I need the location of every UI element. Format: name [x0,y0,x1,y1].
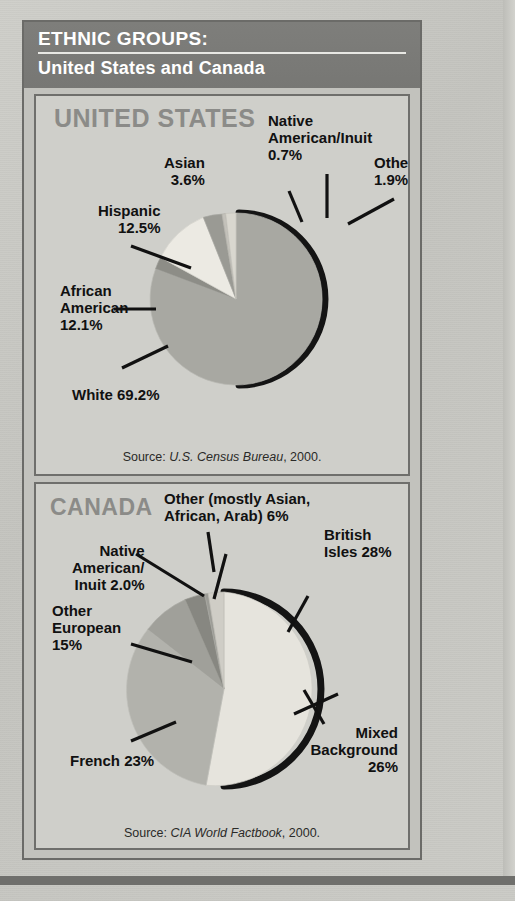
ca-label-mixed-background: Mixed Background 26% [286,724,398,775]
us-source-note: Source: U.S. Census Bureau, 2000. [36,450,408,464]
figure-container: ETHNIC GROUPS: United States and Canada … [22,20,422,860]
united-states-chart-panel: UNITED STATES [34,94,410,476]
header-title-line2: United States and Canada [38,56,406,80]
us-label-hispanic: Hispanic 12.5% [98,202,161,236]
ca-label-french: French 23% [70,752,154,769]
page-right-edge [503,0,515,880]
us-label-white: White 69.2% [72,386,160,403]
us-label-asian: Asian 3.6% [164,154,205,188]
ca-label-native-american: Native American/ Inuit 2.0% [72,542,145,593]
us-pie-slices [150,213,322,385]
figure-header: ETHNIC GROUPS: United States and Canada [24,22,420,88]
ca-label-other-european: Other European 15% [52,602,121,653]
header-title-line1: ETHNIC GROUPS: [38,27,406,51]
ca-label-british-isles: British Isles 28% [324,526,392,560]
canada-chart-panel: CANADA [34,482,410,850]
us-label-native-american: Native American/Inuit 0.7% [268,112,372,163]
ca-source-note: Source: CIA World Factbook, 2000. [36,826,408,840]
ca-pie-slices [127,592,313,786]
ca-label-other-asian: Other (mostly Asian, African, Arab) 6% [164,490,310,524]
ca-source-prefix: Source: [124,826,171,840]
ca-source-italic: CIA World Factbook [170,826,281,840]
us-label-african-american: African American 12.1% [60,282,128,333]
ca-source-suffix: , 2000. [282,826,320,840]
us-source-italic: U.S. Census Bureau [169,450,283,464]
us-source-prefix: Source: [123,450,170,464]
page-footer-rule [0,876,515,885]
header-divider [38,52,406,54]
us-label-other: Other 1.9% [374,154,410,188]
us-source-suffix: , 2000. [283,450,321,464]
